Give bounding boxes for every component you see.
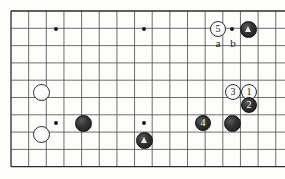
label-b: b xyxy=(227,38,239,49)
stone-white[interactable] xyxy=(33,84,50,101)
stone-white[interactable] xyxy=(33,126,50,143)
stone-black-4[interactable]: 4 xyxy=(195,115,211,131)
stone-white-5[interactable]: 5 xyxy=(210,21,226,37)
stone-black-2[interactable]: 2 xyxy=(241,97,257,113)
stone-white-3[interactable]: 3 xyxy=(225,84,241,100)
stone-black[interactable] xyxy=(224,115,241,132)
stone-number-label: 3 xyxy=(231,87,236,97)
star-point xyxy=(54,121,58,125)
triangle-marker-icon xyxy=(141,137,147,143)
stone-number-label: 1 xyxy=(247,87,252,97)
star-point xyxy=(230,27,234,31)
stone-number-label: 2 xyxy=(247,100,252,110)
stone-black[interactable] xyxy=(75,115,92,132)
stone-number-label: 5 xyxy=(216,24,221,34)
stone-black[interactable] xyxy=(136,132,153,149)
triangle-marker-icon xyxy=(245,26,251,32)
go-board-diagram: 53124 ab xyxy=(0,0,285,179)
star-point xyxy=(142,121,146,125)
stone-number-label: 4 xyxy=(201,118,206,128)
label-a: a xyxy=(212,38,224,49)
stone-black[interactable] xyxy=(240,21,257,38)
star-point xyxy=(54,27,58,31)
